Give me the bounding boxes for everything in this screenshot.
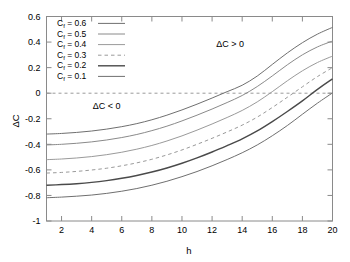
y-tick-label: -0.8 [25, 191, 41, 201]
y-tick-label: -0.4 [25, 140, 41, 150]
y-axis-label: ΔC [10, 114, 21, 127]
x-tick-label: 12 [207, 225, 217, 235]
y-tick-label: 0 [35, 88, 40, 98]
x-axis-label: h [186, 245, 191, 256]
x-tick-label: 18 [297, 225, 307, 235]
x-tick-label: 14 [237, 225, 247, 235]
y-tick-label: 0.4 [28, 37, 41, 47]
x-tick-label: 8 [149, 225, 154, 235]
legend-label-0: Cf = 0.6 [57, 18, 87, 29]
legend-label-1: Cf = 0.5 [57, 29, 87, 40]
y-tick-label: -0.6 [25, 165, 41, 175]
legend-label-4: Cf = 0.2 [57, 60, 87, 71]
x-tick-label: 20 [327, 225, 337, 235]
y-tick-label: 0.2 [28, 63, 41, 73]
delta-c-vs-h-line-chart: 0.60.40.20-0.2-0.4-0.6-0.8-1 24681012141… [0, 0, 350, 262]
annotation-1: ΔC < 0 [93, 101, 121, 111]
y-tick-label: 0.6 [28, 12, 41, 22]
chart-figure: 0.60.40.20-0.2-0.4-0.6-0.8-1 24681012141… [0, 0, 350, 262]
legend-label-5: Cf = 0.1 [57, 71, 87, 82]
x-tick-label: 10 [177, 225, 187, 235]
chart-background [0, 0, 350, 262]
y-tick-label: -1 [32, 216, 40, 226]
x-tick-label: 16 [267, 225, 277, 235]
x-tick-label: 2 [59, 225, 64, 235]
annotation-0: ΔC > 0 [216, 39, 244, 49]
x-tick-label: 6 [119, 225, 124, 235]
x-tick-label: 4 [89, 225, 94, 235]
legend-label-2: Cf = 0.4 [57, 39, 87, 50]
y-tick-label: -0.2 [25, 114, 41, 124]
legend-label-3: Cf = 0.3 [57, 50, 87, 61]
